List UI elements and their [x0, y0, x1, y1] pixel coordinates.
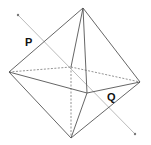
edge-top-front	[83, 8, 87, 93]
rotation-axis	[18, 15, 135, 134]
label-q: Q	[107, 91, 116, 103]
axis-endpoint-start	[17, 14, 19, 16]
octahedron-diagram: P Q	[0, 0, 151, 145]
label-p: P	[25, 36, 32, 48]
edge-left-bottom	[9, 72, 71, 138]
axis-endpoint-end	[134, 133, 136, 135]
edge-left-front	[9, 72, 87, 93]
edge-top-right	[83, 8, 140, 82]
edge-left-back	[9, 67, 71, 72]
